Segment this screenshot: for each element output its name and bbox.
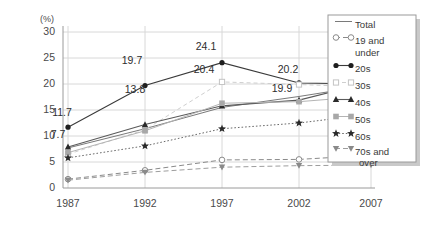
x-tick-2002: 2002 <box>287 197 311 209</box>
data-label-20-4: 20.4 <box>194 63 215 75</box>
legend-label-50s: 50s <box>355 114 371 125</box>
legend-label-under: under <box>355 47 380 58</box>
data-point-30s <box>219 79 224 84</box>
data-label-7-7: 7.7 <box>51 128 66 140</box>
y-tick-20: 20 <box>43 77 55 89</box>
legend: Total 19 and under 20s 30s 40s 50s 60s 7… <box>328 15 420 168</box>
legend-label-over: over <box>359 157 378 168</box>
line-chart: (%) 0 5 10 15 20 25 30 1987 1992 1997 20… <box>0 0 421 239</box>
x-tick-1997: 1997 <box>210 197 234 209</box>
chart-container: (%) 0 5 10 15 20 25 30 1987 1992 1997 20… <box>0 0 421 239</box>
data-label-11-7: 11.7 <box>52 106 72 118</box>
y-tick-30: 30 <box>43 25 55 37</box>
data-label-19-7: 19.7 <box>122 54 143 66</box>
y-tick-5: 5 <box>49 155 55 167</box>
y-tick-0: 0 <box>49 181 55 193</box>
data-label-13-8: 13.8 <box>125 83 146 95</box>
data-point-50s <box>219 100 225 106</box>
data-point-30s <box>296 82 301 87</box>
legend-label-70s-and: 70s and <box>355 146 389 157</box>
data-point-19-and-under <box>219 157 225 163</box>
legend-label-60s: 60s <box>355 131 371 142</box>
data-point-20s <box>219 60 224 65</box>
legend-label-30s: 30s <box>355 80 371 91</box>
x-tick-2007: 2007 <box>359 197 383 209</box>
legend-label-40s: 40s <box>355 97 371 108</box>
data-label-20-2: 20.2 <box>278 63 299 75</box>
x-tick-1987: 1987 <box>56 197 80 209</box>
legend-label-19-and: 19 and <box>355 35 384 46</box>
legend-label-total: Total <box>355 19 375 30</box>
x-tick-1992: 1992 <box>133 197 157 209</box>
data-point-50s <box>142 128 148 134</box>
data-label-24-1: 24.1 <box>196 40 217 52</box>
data-label-19-9: 19.9 <box>272 82 293 94</box>
data-point-50s <box>296 99 302 105</box>
y-tick-25: 25 <box>43 51 55 63</box>
y-axis-unit-label: (%) <box>40 14 54 24</box>
data-point-20s <box>65 125 70 130</box>
data-point-19-and-under <box>296 157 302 163</box>
legend-label-20s: 20s <box>355 63 371 74</box>
